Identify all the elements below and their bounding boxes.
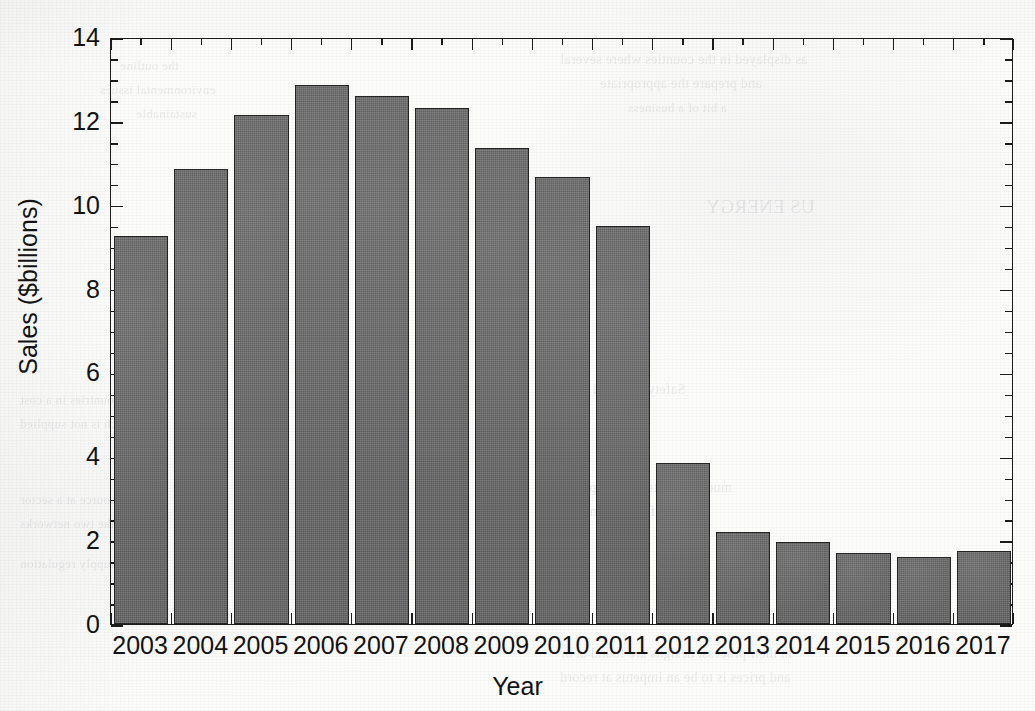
y-tick-label: 12 <box>4 109 100 134</box>
y-tick-label: 2 <box>4 528 100 553</box>
y-major-tick-l <box>111 625 123 626</box>
y-tick-label: 6 <box>4 360 100 385</box>
bar <box>174 169 228 624</box>
bars-layer <box>111 39 1012 624</box>
bar <box>535 177 589 624</box>
y-tick-label: 14 <box>4 25 100 50</box>
x-major-tick-b <box>1013 613 1014 624</box>
y-tick-label: 10 <box>4 193 100 218</box>
bar <box>596 226 650 624</box>
bar <box>114 236 168 624</box>
y-major-tick-r <box>1000 625 1012 626</box>
plot-area <box>110 38 1013 625</box>
bar <box>716 532 770 624</box>
bar <box>836 553 890 624</box>
bar <box>295 85 349 624</box>
x-axis-title: Year <box>0 672 1035 701</box>
chart-page: as displayed in the counties where sever… <box>0 0 1035 711</box>
bar <box>234 115 288 624</box>
x-major-tick-t <box>1013 39 1014 50</box>
bar <box>475 148 529 624</box>
bar <box>656 463 710 624</box>
y-tick-label: 8 <box>4 277 100 302</box>
bar <box>957 551 1011 624</box>
y-tick-label: 4 <box>4 444 100 469</box>
bar <box>415 108 469 624</box>
bar <box>897 557 951 624</box>
x-tick-label: 2017 <box>947 633 1019 658</box>
bar <box>776 542 830 624</box>
bar <box>355 96 409 624</box>
y-tick-label: 0 <box>4 612 100 637</box>
